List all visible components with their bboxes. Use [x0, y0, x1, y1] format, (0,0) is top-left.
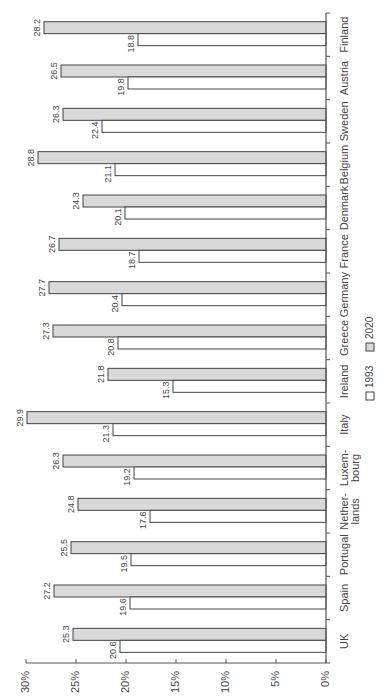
category-label: Ireland — [338, 365, 350, 399]
value-label-1993: 20.1 — [113, 208, 123, 226]
value-label-2020: 25.5 — [59, 539, 69, 557]
value-label-1993: 22.4 — [90, 122, 100, 140]
value-label-1993: 19.8 — [116, 78, 126, 96]
legend-1993-label: 1993 — [364, 365, 375, 388]
legend: 19932020 — [364, 316, 375, 400]
value-label-1993: 17.6 — [138, 512, 148, 530]
bar-1993 — [125, 207, 326, 219]
value-label-2020: 27.2 — [42, 582, 52, 600]
bar-2020 — [38, 152, 326, 164]
bar-1993 — [138, 34, 326, 46]
category-label: Greece — [338, 320, 350, 356]
bar-2020 — [63, 108, 326, 120]
value-axis: 0%5%10%15%20%25%30% — [19, 659, 331, 693]
value-tick-label: 20% — [119, 671, 131, 693]
bar-1993 — [118, 337, 326, 349]
bar-1993 — [115, 164, 326, 176]
category-label: Germany — [338, 272, 350, 318]
bar-chart: 25.320.627.219.625.519.524.817.626.319.2… — [0, 0, 385, 699]
category-label: UK — [338, 633, 350, 649]
category-label: Spain — [338, 584, 350, 612]
bar-1993 — [102, 120, 326, 132]
value-tick-label: 10% — [219, 671, 231, 693]
bar-2020 — [108, 368, 326, 380]
value-label-1993: 20.8 — [106, 338, 116, 356]
bar-2020 — [78, 498, 326, 510]
category-label: Sweden — [338, 101, 350, 141]
value-label-2020: 24.3 — [71, 192, 81, 210]
bar-1993 — [122, 294, 326, 306]
bar-1993 — [150, 510, 326, 522]
value-label-2020: 27.3 — [41, 322, 51, 340]
value-label-2020: 24.8 — [66, 496, 76, 514]
value-label-1993: 18.8 — [126, 35, 136, 53]
value-tick-label: 0% — [319, 671, 331, 687]
bar-2020 — [27, 412, 326, 424]
value-label-1993: 21.1 — [103, 165, 113, 183]
value-label-2020: 25.3 — [61, 626, 71, 644]
category-axis: UKSpainPortugalNether-landsLuxem-bourgIt… — [326, 13, 361, 663]
bars-group — [27, 22, 326, 653]
category-label: Denmark — [338, 185, 350, 230]
bar-1993 — [139, 250, 326, 262]
bar-2020 — [71, 542, 326, 554]
value-label-1993: 19.2 — [122, 468, 132, 486]
value-label-2020: 26.7 — [47, 236, 57, 254]
bar-1993 — [173, 380, 326, 392]
bar-1993 — [130, 597, 326, 609]
category-label: bourg — [349, 454, 361, 482]
value-label-2020: 26.5 — [49, 62, 59, 80]
category-label: Austria — [338, 60, 350, 95]
category-label: Belgium — [338, 145, 350, 185]
value-tick-label: 30% — [19, 671, 31, 693]
value-label-2020: 28.8 — [26, 149, 36, 167]
bar-2020 — [53, 325, 326, 337]
value-tick-label: 5% — [269, 671, 281, 687]
value-label-2020: 29.9 — [15, 409, 25, 427]
value-label-2020: 27.7 — [37, 279, 47, 297]
value-label-1993: 20.6 — [108, 642, 118, 660]
bar-2020 — [63, 455, 326, 467]
value-label-2020: 28.2 — [32, 19, 42, 37]
bar-2020 — [54, 585, 326, 597]
bar-1993 — [131, 554, 326, 566]
value-label-1993: 19.5 — [119, 555, 129, 573]
bar-2020 — [44, 22, 326, 34]
value-label-2020: 21.8 — [96, 366, 106, 384]
bar-1993 — [128, 77, 326, 89]
value-label-1993: 20.4 — [110, 295, 120, 313]
legend-2020-label: 2020 — [364, 316, 375, 339]
legend-2020-swatch — [366, 343, 374, 351]
value-label-1993: 18.7 — [127, 252, 137, 270]
category-label: lands — [349, 498, 361, 525]
category-label: Portugal — [338, 534, 350, 575]
bar-1993 — [113, 424, 326, 436]
category-label: Italy — [338, 414, 350, 435]
value-label-1993: 21.3 — [101, 425, 111, 443]
value-tick-label: 15% — [169, 671, 181, 693]
bar-2020 — [59, 238, 326, 250]
value-label-2020: 26.3 — [51, 106, 61, 124]
bar-2020 — [83, 195, 326, 207]
value-label-1993: 19.6 — [118, 598, 128, 616]
bar-1993 — [120, 640, 326, 652]
bar-2020 — [61, 65, 326, 77]
bar-1993 — [134, 467, 326, 479]
legend-1993-swatch — [366, 392, 374, 400]
category-label: France — [338, 234, 350, 268]
value-label-1993: 15.3 — [161, 382, 171, 400]
bar-2020 — [49, 282, 326, 294]
category-label: Finland — [338, 17, 350, 53]
value-tick-label: 25% — [69, 671, 81, 693]
value-label-2020: 26.3 — [51, 452, 61, 470]
bar-2020 — [73, 628, 326, 640]
